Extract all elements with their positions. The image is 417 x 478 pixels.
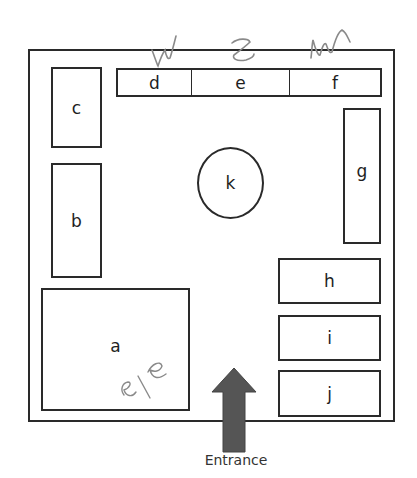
area-h-label: h	[324, 271, 335, 291]
area-f-label: f	[332, 73, 338, 93]
area-b: b	[51, 163, 102, 278]
area-j-label: j	[327, 384, 332, 404]
area-d-label: d	[149, 73, 160, 93]
area-c-label: c	[72, 98, 81, 118]
area-f: f	[290, 70, 380, 95]
area-c: c	[51, 67, 102, 148]
counter-strip-def: d e f	[116, 68, 382, 97]
area-a: a	[41, 288, 190, 411]
area-h: h	[278, 258, 381, 304]
area-j: j	[278, 370, 381, 417]
area-g: g	[343, 108, 381, 244]
area-e-label: e	[235, 73, 245, 93]
area-d: d	[118, 70, 192, 95]
area-a-label: a	[110, 336, 120, 356]
area-b-label: b	[71, 211, 82, 231]
area-k: k	[197, 147, 264, 219]
area-g-label: g	[357, 161, 368, 181]
area-e: e	[192, 70, 290, 95]
area-i-label: i	[327, 328, 332, 348]
area-i: i	[278, 315, 381, 361]
area-k-label: k	[226, 173, 236, 193]
entrance-label: Entrance	[199, 452, 273, 468]
